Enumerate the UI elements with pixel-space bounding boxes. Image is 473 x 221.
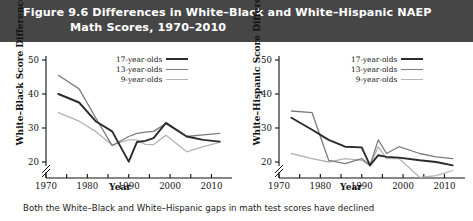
svg-text:30: 30 [28,123,39,133]
figure-caption: Both the White–Black and White–Hispanic … [23,202,453,214]
legend-label-9: 9-year-olds [121,75,163,84]
legend-swatch-13-icon [166,69,188,70]
figure-title: Figure 9.6 Differences in White–Black an… [23,5,465,35]
svg-text:1970: 1970 [35,181,57,191]
legend-item-17: 17-year-olds [351,54,423,64]
chart-panel-white-hispanic: White–Hispanic Score Difference 20304050… [233,42,469,197]
legend-left: 17-year-olds 13-year-olds 9-year-olds [116,54,188,84]
svg-text:30: 30 [261,123,272,133]
legend-swatch-17-icon [401,58,423,60]
legend-label-17: 17-year-olds [351,55,397,64]
svg-text:2010: 2010 [201,181,223,191]
legend-item-17: 17-year-olds [116,54,188,64]
legend-swatch-9-icon [401,79,423,80]
x-axis-label-left: Year [60,182,180,192]
legend-swatch-9-icon [166,79,188,80]
legend-item-9: 9-year-olds [351,74,423,84]
legend-label-13: 13-year-olds [116,65,162,74]
figure-title-line-2: Math Scores, 1970–2010 [23,20,465,35]
legend-right: 17-year-olds 13-year-olds 9-year-olds [351,54,423,84]
svg-text:50: 50 [261,55,272,65]
legend-swatch-17-icon [166,58,188,60]
svg-text:1970: 1970 [268,181,290,191]
legend-label-17: 17-year-olds [116,55,162,64]
figure-title-line-1: Figure 9.6 Differences in White–Black an… [23,5,465,20]
legend-swatch-13-icon [401,69,423,70]
svg-text:40: 40 [261,89,272,99]
legend-item-13: 13-year-olds [116,64,188,74]
svg-text:2010: 2010 [434,181,456,191]
svg-text:50: 50 [28,55,39,65]
legend-item-13: 13-year-olds [351,64,423,74]
chart-panel-white-black: White–Black Score Difference 20304050197… [0,42,236,197]
svg-text:20: 20 [261,157,272,167]
legend-label-13: 13-year-olds [351,65,397,74]
svg-text:40: 40 [28,89,39,99]
figure-title-banner: Figure 9.6 Differences in White–Black an… [0,0,473,42]
legend-item-9: 9-year-olds [116,74,188,84]
legend-label-9: 9-year-olds [356,75,398,84]
svg-text:20: 20 [28,157,39,167]
x-axis-label-right: Year [291,182,411,192]
figure-body: White–Black Score Difference 20304050197… [0,42,473,221]
